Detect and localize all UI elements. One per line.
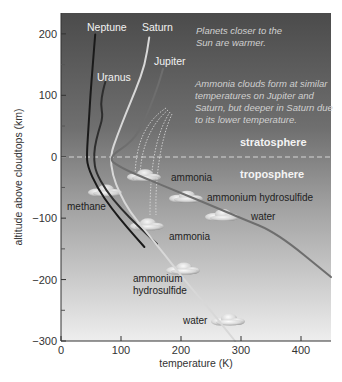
y-axis-title: altitude above cloudtops (km): [12, 108, 24, 245]
label-uranus: Uranus: [97, 71, 131, 83]
label-stratosphere: stratosphere: [240, 136, 307, 148]
x-tick-label: 100: [112, 344, 130, 356]
y-tick-label: 100: [39, 89, 57, 101]
svg-text:Ammonia clouds form at similar: Ammonia clouds form at similar: [194, 78, 328, 89]
y-tick-label: 0: [51, 151, 57, 163]
label-saturn: Saturn: [142, 21, 173, 33]
x-tick-label: 200: [172, 344, 190, 356]
temperature-altitude-chart: 0100200300400 −300−200−1000100200 temper…: [0, 0, 342, 382]
label-jupiter: Jupiter: [154, 55, 186, 67]
svg-text:Planets closer to the: Planets closer to the: [196, 25, 282, 36]
cloud-label-water-saturn: water: [182, 315, 208, 326]
label-troposphere: troposphere: [240, 168, 304, 180]
svg-text:Sun are warmer.: Sun are warmer.: [196, 37, 266, 48]
svg-text:temperatures on Jupiter and: temperatures on Jupiter and: [195, 90, 315, 101]
cloud-label-ammonia-saturn: ammonia: [169, 231, 211, 242]
cloud-label-ahs-saturn-1: ammonium: [133, 273, 182, 284]
y-tick-label: −100: [32, 212, 57, 224]
y-axis: −300−200−1000100200: [32, 13, 66, 347]
x-axis-title: temperature (K): [159, 357, 233, 369]
cloud-label-water-jupiter: water: [250, 211, 276, 222]
y-tick-label: −300: [32, 335, 57, 347]
svg-text:to its lower temperature.: to its lower temperature.: [195, 114, 297, 125]
cloud-label-ahs-saturn-2: hydrosulfide: [133, 285, 187, 296]
x-tick-label: 300: [232, 344, 250, 356]
cloud-label-methane: methane: [67, 201, 106, 212]
label-neptune: Neptune: [87, 21, 127, 33]
y-tick-label: −200: [32, 274, 57, 286]
x-tick-label: 400: [292, 344, 310, 356]
cloud-label-ahs-jupiter: ammonium hydrosulfide: [207, 192, 314, 203]
cloud-label-ammonia-jupiter: ammonia: [171, 172, 213, 183]
svg-text:Saturn, but deeper in Saturn d: Saturn, but deeper in Saturn due: [195, 102, 333, 113]
y-tick-label: 200: [39, 28, 57, 40]
x-tick-label: 0: [58, 344, 64, 356]
